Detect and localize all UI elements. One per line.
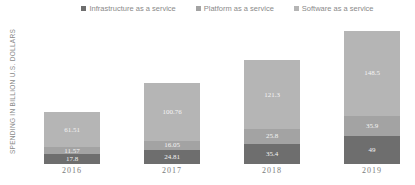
bar-segment-iaas: 49: [344, 136, 400, 164]
y-axis-label: SPENDING IN BILLION U.S. DOLLARS: [9, 22, 16, 162]
x-tick-label: 2017: [144, 166, 200, 175]
data-label: 11.57: [64, 147, 80, 155]
bar-2019: 4935.9148.5: [344, 31, 400, 164]
x-tick-label: 2018: [244, 166, 300, 175]
bar-segment-iaas: 17.8: [44, 154, 100, 164]
data-label: 148.5: [364, 69, 380, 77]
legend-item-iaas: Infrastructure as a service: [81, 4, 175, 13]
data-label: 25.8: [266, 132, 278, 140]
data-label: 35.9: [366, 122, 378, 130]
data-label: 35.4: [266, 150, 278, 158]
data-label: 16.05: [164, 141, 180, 149]
bar-segment-paas: 11.57: [44, 147, 100, 154]
chart-legend: Infrastructure as a service Platform as …: [0, 4, 415, 13]
data-label: 100.76: [162, 108, 181, 116]
legend-swatch-paas: [196, 6, 201, 11]
bar-segment-paas: 35.9: [344, 116, 400, 136]
legend-label-paas: Platform as a service: [204, 4, 274, 13]
bar-segment-saas: 100.76: [144, 83, 200, 140]
bar-segment-iaas: 24.81: [144, 150, 200, 164]
bar-segment-saas: 61.51: [44, 112, 100, 147]
data-label: 49: [369, 146, 376, 154]
legend-item-paas: Platform as a service: [196, 4, 274, 13]
legend-swatch-iaas: [81, 6, 86, 11]
bar-segment-saas: 121.3: [244, 60, 300, 129]
legend-item-saas: Software as a service: [294, 4, 374, 13]
bar-segment-paas: 16.05: [144, 141, 200, 150]
legend-swatch-saas: [294, 6, 299, 11]
bar-segment-paas: 25.8: [244, 129, 300, 144]
legend-label-saas: Software as a service: [302, 4, 374, 13]
data-label: 121.3: [264, 91, 280, 99]
data-label: 61.51: [64, 126, 80, 134]
x-tick-label: 2019: [344, 166, 400, 175]
bar-2016: 17.811.5761.51: [44, 112, 100, 164]
data-label: 17.8: [66, 155, 78, 163]
bar-2018: 35.425.8121.3: [244, 60, 300, 164]
legend-label-iaas: Infrastructure as a service: [89, 4, 175, 13]
bar-segment-iaas: 35.4: [244, 144, 300, 164]
plot-area: 17.811.5761.5124.8116.05100.7635.425.812…: [30, 20, 415, 164]
bar-segment-saas: 148.5: [344, 31, 400, 116]
data-label: 24.81: [164, 153, 180, 161]
x-tick-label: 2016: [44, 166, 100, 175]
bar-2017: 24.8116.05100.76: [144, 83, 200, 164]
